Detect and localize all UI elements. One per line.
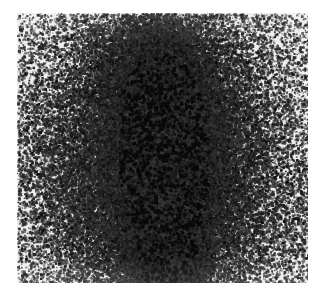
- scintigram-plate: [17, 13, 308, 283]
- scan-image-page: Grayscale dot-density scintigraphy scan …: [0, 0, 325, 295]
- scintigram-dot-density-canvas: [17, 13, 308, 283]
